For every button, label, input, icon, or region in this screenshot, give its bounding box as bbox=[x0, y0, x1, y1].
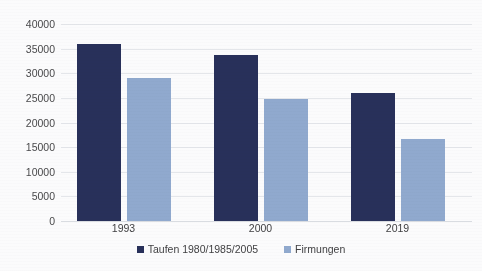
bar-group bbox=[214, 24, 308, 221]
legend-label: Taufen 1980/1985/2005 bbox=[148, 243, 258, 255]
y-axis-tick-label: 30000 bbox=[0, 68, 55, 79]
bar-group bbox=[351, 24, 445, 221]
y-axis-tick-label: 35000 bbox=[0, 43, 55, 54]
y-axis-tick-label: 15000 bbox=[0, 142, 55, 153]
bar bbox=[127, 78, 171, 221]
legend-swatch-icon bbox=[137, 246, 144, 253]
legend-label: Firmungen bbox=[295, 243, 345, 255]
legend-swatch-icon bbox=[284, 246, 291, 253]
x-axis-tick-label: 2000 bbox=[231, 223, 291, 234]
y-axis-tick-label: 20000 bbox=[0, 117, 55, 128]
bar bbox=[401, 139, 445, 221]
plot-area bbox=[61, 24, 472, 221]
legend-item[interactable]: Taufen 1980/1985/2005 bbox=[137, 243, 258, 255]
x-axis-tick-label: 1993 bbox=[94, 223, 154, 234]
x-axis-tick-label: 2019 bbox=[368, 223, 428, 234]
bar bbox=[214, 55, 258, 221]
chart-legend: Taufen 1980/1985/2005Firmungen bbox=[0, 243, 482, 255]
legend-item[interactable]: Firmungen bbox=[284, 243, 345, 255]
bar-group bbox=[77, 24, 171, 221]
y-axis-tick-label: 40000 bbox=[0, 19, 55, 30]
bar-chart: 0500010000150002000025000300003500040000… bbox=[0, 0, 482, 271]
bar bbox=[351, 93, 395, 221]
y-axis-tick-label: 0 bbox=[0, 216, 55, 227]
y-axis-tick-label: 5000 bbox=[0, 191, 55, 202]
y-axis-tick-label: 25000 bbox=[0, 93, 55, 104]
bar bbox=[264, 99, 308, 221]
y-axis-tick-label: 10000 bbox=[0, 167, 55, 178]
bar bbox=[77, 44, 121, 221]
